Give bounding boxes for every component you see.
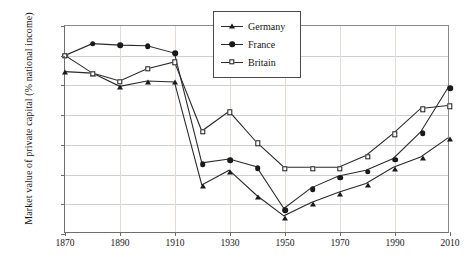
x-tick-mark xyxy=(395,232,396,236)
data-point-britain xyxy=(117,79,122,84)
data-point-germany xyxy=(420,156,426,161)
data-point-britain xyxy=(255,141,260,146)
x-tick-label: 1930 xyxy=(221,238,240,248)
legend-item-germany[interactable]: Germany xyxy=(221,17,293,35)
data-point-france xyxy=(145,43,151,49)
data-point-france xyxy=(172,51,178,57)
data-point-britain xyxy=(420,106,425,111)
data-point-germany xyxy=(310,202,316,207)
data-point-britain xyxy=(447,104,452,109)
data-point-britain xyxy=(200,129,205,134)
data-point-france xyxy=(255,165,261,171)
data-point-britain xyxy=(172,60,177,65)
x-tick-mark xyxy=(450,232,451,236)
data-point-britain xyxy=(337,166,342,171)
x-tick-label: 1910 xyxy=(166,238,185,248)
x-tick-mark xyxy=(340,232,341,236)
x-tick-mark xyxy=(65,232,66,236)
y-tick-mark xyxy=(61,115,65,116)
data-point-britain xyxy=(310,166,315,171)
data-point-germany xyxy=(117,84,123,89)
data-point-britain xyxy=(90,71,95,76)
data-point-germany xyxy=(255,194,261,199)
x-tick-label: 1870 xyxy=(56,238,75,248)
y-axis-title: Market value of private capital (% natio… xyxy=(23,4,34,234)
data-point-germany xyxy=(145,79,151,84)
data-point-france xyxy=(282,207,288,213)
data-point-france xyxy=(447,86,453,92)
legend-label: France xyxy=(248,39,275,50)
x-tick-mark xyxy=(285,232,286,236)
x-tick-mark xyxy=(120,232,121,236)
legend-label: Germany xyxy=(248,21,285,32)
legend-label: Britain xyxy=(248,57,276,68)
y-tick-mark xyxy=(61,26,65,27)
x-tick-label: 1950 xyxy=(276,238,295,248)
data-point-germany xyxy=(200,184,206,189)
y-tick-mark xyxy=(61,85,65,86)
data-point-britain xyxy=(365,154,370,159)
data-point-germany xyxy=(172,80,178,85)
data-point-britain xyxy=(282,166,287,171)
x-tick-label: 1890 xyxy=(111,238,130,248)
data-point-germany xyxy=(337,191,343,196)
data-point-france xyxy=(392,157,398,163)
data-point-germany xyxy=(227,169,233,174)
x-tick-mark xyxy=(175,232,176,236)
data-point-germany xyxy=(62,70,68,75)
y-tick-mark xyxy=(61,145,65,146)
data-point-britain xyxy=(392,132,397,137)
data-point-france xyxy=(200,161,206,167)
data-point-france xyxy=(365,169,371,175)
data-point-france xyxy=(227,158,233,164)
legend-marker-circle-icon xyxy=(221,38,243,50)
data-point-germany xyxy=(447,136,453,141)
data-point-france xyxy=(117,43,123,49)
data-point-france xyxy=(310,187,316,193)
legend-marker-square-icon xyxy=(221,56,243,68)
x-tick-label: 1970 xyxy=(331,238,350,248)
private-capital-line-chart: Market value of private capital (% natio… xyxy=(0,0,469,272)
chart-legend: GermanyFranceBritain xyxy=(213,11,301,78)
data-point-britain xyxy=(227,109,232,114)
data-point-france xyxy=(90,41,96,47)
y-tick-mark xyxy=(61,175,65,176)
legend-item-france[interactable]: France xyxy=(221,35,293,53)
y-tick-mark xyxy=(61,56,65,57)
legend-item-britain[interactable]: Britain xyxy=(221,53,293,71)
data-point-germany xyxy=(392,166,398,171)
data-point-germany xyxy=(282,215,288,220)
data-point-germany xyxy=(365,182,371,187)
data-point-france xyxy=(337,175,343,181)
legend-marker-triangle-icon xyxy=(221,20,243,32)
y-tick-mark xyxy=(61,204,65,205)
x-tick-label: 1990 xyxy=(386,238,405,248)
x-tick-mark xyxy=(230,232,231,236)
data-point-france xyxy=(420,130,426,136)
x-tick-label: 2010 xyxy=(441,238,460,248)
data-point-britain xyxy=(145,66,150,71)
